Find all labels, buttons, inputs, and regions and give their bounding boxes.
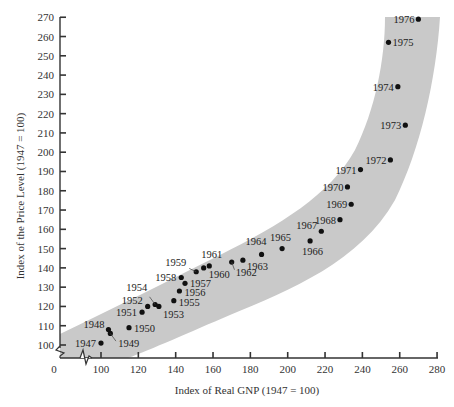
- x-tick-label: 220: [317, 363, 334, 375]
- svg-text:1976: 1976: [393, 14, 414, 25]
- svg-text:1952: 1952: [122, 295, 143, 306]
- y-tick-label: 250: [38, 50, 55, 62]
- y-tick-label: 170: [38, 204, 55, 216]
- y-tick-label: 240: [38, 69, 55, 81]
- y-tick-label: 180: [38, 185, 55, 197]
- svg-text:1970: 1970: [322, 182, 343, 193]
- y-tick-label: 120: [38, 300, 55, 312]
- y-axis-title: Index of the Price Level (1947 = 100): [14, 96, 26, 296]
- svg-text:1964: 1964: [246, 236, 268, 247]
- svg-text:1971: 1971: [336, 165, 357, 176]
- y-tick-label: 110: [38, 320, 55, 332]
- svg-text:1953: 1953: [163, 309, 184, 320]
- x-tick-label: 240: [354, 363, 371, 375]
- y-tick-label: 260: [38, 31, 55, 43]
- svg-text:1947: 1947: [75, 338, 96, 349]
- svg-text:1948: 1948: [83, 319, 104, 330]
- svg-text:1968: 1968: [315, 215, 336, 226]
- svg-text:1949: 1949: [118, 338, 139, 349]
- x-tick-label: 100: [93, 363, 110, 375]
- svg-text:1957: 1957: [190, 278, 211, 289]
- x-tick-label: 260: [391, 363, 408, 375]
- y-tick-label: 160: [38, 223, 55, 235]
- svg-text:1958: 1958: [155, 272, 176, 283]
- scatter-chart: 1001101201301401501601701801902002102202…: [0, 0, 454, 407]
- y-tick-label: 220: [38, 108, 55, 120]
- x-tick-label: 140: [167, 363, 184, 375]
- svg-text:1955: 1955: [179, 297, 200, 308]
- svg-text:1950: 1950: [134, 323, 155, 334]
- y-tick-label: 210: [38, 127, 55, 139]
- x-tick-label: 120: [130, 363, 147, 375]
- y-tick-label: 270: [38, 11, 55, 23]
- svg-text:1972: 1972: [365, 155, 386, 166]
- y-tick-label: 190: [38, 165, 55, 177]
- svg-text:1975: 1975: [393, 37, 414, 48]
- y-tick-label: 140: [38, 262, 55, 274]
- x-tick-label: 0: [51, 363, 57, 375]
- svg-text:1974: 1974: [373, 82, 395, 93]
- svg-text:1960: 1960: [209, 269, 230, 280]
- svg-text:1969: 1969: [326, 199, 347, 210]
- svg-text:1963: 1963: [247, 261, 268, 272]
- y-tick-label: 230: [38, 88, 55, 100]
- svg-text:1959: 1959: [165, 257, 186, 268]
- svg-text:1966: 1966: [302, 246, 323, 257]
- svg-text:1965: 1965: [270, 232, 291, 243]
- svg-text:1973: 1973: [380, 120, 401, 131]
- x-tick-label: 280: [429, 363, 446, 375]
- x-axis-title: Index of Real GNP (1947 = 100): [0, 384, 454, 396]
- x-tick-label: 200: [279, 363, 296, 375]
- svg-text:1954: 1954: [126, 282, 148, 293]
- y-tick-label: 150: [38, 243, 55, 255]
- svg-text:1961: 1961: [201, 249, 222, 260]
- x-tick-label: 160: [205, 363, 222, 375]
- y-tick-label: 200: [38, 146, 55, 158]
- svg-text:1951: 1951: [116, 307, 137, 318]
- y-tick-label: 100: [38, 339, 55, 351]
- x-tick-label: 180: [242, 363, 259, 375]
- y-tick-label: 130: [38, 281, 55, 293]
